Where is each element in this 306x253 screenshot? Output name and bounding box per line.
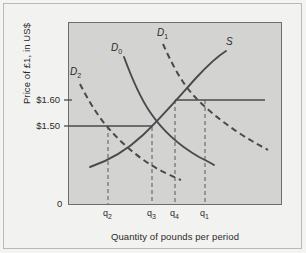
xtick-label-q3: q3: [147, 208, 156, 220]
curve-supply-s: [90, 51, 226, 167]
curve-label-s: S: [226, 36, 233, 47]
curve-label-d0: D0: [111, 42, 122, 55]
x-axis-label: Quantity of pounds per period: [68, 231, 282, 242]
y-axis-label: Price of £1, in US$: [21, 0, 32, 134]
curve-label-d2: D2: [70, 66, 81, 79]
curve-label-d1: D1: [157, 27, 168, 40]
figure-container: Price of £1, in US$ $1.60 $1.50 0 q2 q3 …: [0, 0, 306, 253]
xtick-label-q2-sub: 2: [108, 213, 112, 220]
ytick-label-1-60: $1.60: [18, 94, 60, 105]
y-axis-ticks: [64, 100, 72, 126]
reference-lines: [69, 100, 265, 126]
ytick-label-1-50: $1.50: [18, 120, 60, 131]
curve-label-d0-sub: 0: [118, 48, 122, 55]
xtick-label-q1-sub: 1: [205, 213, 209, 220]
xtick-label-q2: q2: [103, 208, 112, 220]
xtick-label-q3-sub: 3: [152, 213, 156, 220]
xtick-label-q4-sub: 4: [175, 213, 179, 220]
origin-label: 0: [57, 198, 62, 209]
curve-label-d1-sub: 1: [164, 33, 168, 40]
xtick-label-q4: q4: [170, 208, 179, 220]
xtick-label-q1: q1: [200, 208, 209, 220]
curve-label-d2-sub: 2: [77, 72, 81, 79]
